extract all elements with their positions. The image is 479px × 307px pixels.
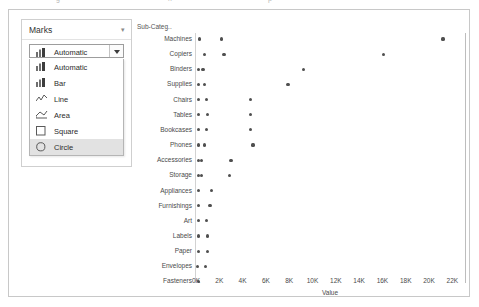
mark-dot[interactable] <box>197 113 200 116</box>
row-label-bookcases: Bookcases <box>72 126 192 133</box>
x-axis-tick: 22K <box>447 277 459 284</box>
row-label-chairs: Chairs <box>72 96 192 103</box>
mark-dot[interactable] <box>302 68 305 71</box>
x-axis-tick: 8K <box>285 277 293 284</box>
mark-dot[interactable] <box>220 37 223 40</box>
plot-area: MachinesCopiersBindersSuppliesChairsTabl… <box>137 19 467 269</box>
row-label-appliances: Appliances <box>72 187 192 194</box>
mark-dot[interactable] <box>198 37 201 40</box>
x-axis-tick: 20K <box>423 277 435 284</box>
mark-dot[interactable] <box>201 68 204 71</box>
clipped-glyph: rr <box>168 0 173 2</box>
mark-dot[interactable] <box>205 219 208 222</box>
clipped-top-strip: grrp <box>0 0 479 8</box>
row-label-art: Art <box>72 217 192 224</box>
mark-dot[interactable] <box>203 53 206 56</box>
mark-dot[interactable] <box>228 174 231 177</box>
circle-mark-icon <box>36 142 46 153</box>
mark-dot[interactable] <box>203 143 206 146</box>
line-mark-icon <box>36 94 48 104</box>
mark-dot[interactable] <box>197 204 200 207</box>
mark-dot[interactable] <box>286 83 289 86</box>
row-label-supplies: Supplies <box>72 80 192 87</box>
row-label-tables: Tables <box>72 111 192 118</box>
mark-dot[interactable] <box>197 98 200 101</box>
mark-dot[interactable] <box>249 98 252 101</box>
mark-dot[interactable] <box>249 113 252 116</box>
mark-dot[interactable] <box>205 98 208 101</box>
row-label-binders: Binders <box>72 65 192 72</box>
row-label-copiers: Copiers <box>72 50 192 57</box>
x-axis-tick: 16K <box>377 277 389 284</box>
mark-option-label: Bar <box>54 79 66 88</box>
row-label-accessories: Accessories <box>72 156 192 163</box>
row-label-storage: Storage <box>72 171 192 178</box>
area-mark-icon <box>36 110 48 120</box>
mark-dot[interactable] <box>197 234 200 237</box>
x-axis-tick: 10K <box>307 277 319 284</box>
mark-dot[interactable] <box>197 219 200 222</box>
x-axis-tick: 0K <box>192 277 200 284</box>
clipped-glyph: g <box>56 0 60 2</box>
mark-dot[interactable] <box>249 128 252 131</box>
mark-dot[interactable] <box>229 159 232 162</box>
row-label-envelopes: Envelopes <box>72 262 192 269</box>
mark-dot[interactable] <box>222 53 225 56</box>
x-axis-tick: 14K <box>353 277 365 284</box>
mark-dot[interactable] <box>208 204 211 207</box>
row-label-furnishings: Furnishings <box>72 202 192 209</box>
mark-dot[interactable] <box>200 174 203 177</box>
x-axis-title: Value <box>195 289 465 296</box>
mark-dot[interactable] <box>203 83 206 86</box>
scatter-chart: Sub-Categ.. MachinesCopiersBindersSuppli… <box>137 19 467 297</box>
mark-dot[interactable] <box>197 68 200 71</box>
mark-dot[interactable] <box>210 189 213 192</box>
square-mark-icon <box>36 126 46 137</box>
mark-dot[interactable] <box>206 234 209 237</box>
mark-option-label: Area <box>54 111 70 120</box>
row-label-labels: Labels <box>72 232 192 239</box>
mark-option-label: Line <box>54 95 68 104</box>
visualization-frame: Marks ▾ Automatic AutomaticBarLineAreaSq… <box>8 9 470 297</box>
x-axis-tick: 18K <box>400 277 412 284</box>
row-label-fasteners: Fasteners <box>72 277 192 284</box>
mark-dot[interactable] <box>197 250 200 253</box>
mark-dot[interactable] <box>206 113 209 116</box>
chevron-down-icon[interactable]: ▾ <box>121 27 125 33</box>
mark-dot[interactable] <box>251 143 254 146</box>
mark-dot[interactable] <box>382 53 385 56</box>
mark-dot[interactable] <box>197 128 200 131</box>
x-axis-tick: 2K <box>215 277 223 284</box>
row-label-machines: Machines <box>72 35 192 42</box>
mark-dot[interactable] <box>200 159 203 162</box>
bar-mark-icon <box>36 48 47 58</box>
mark-dot[interactable] <box>197 143 200 146</box>
mark-dot[interactable] <box>204 265 207 268</box>
row-label-paper: Paper <box>72 247 192 254</box>
x-axis-tick: 6K <box>262 277 270 284</box>
row-label-phones: Phones <box>72 141 192 148</box>
mark-dot[interactable] <box>206 250 209 253</box>
mark-dot[interactable] <box>205 128 208 131</box>
mark-option-label: Circle <box>54 143 73 152</box>
mark-dot[interactable] <box>197 189 200 192</box>
marks-card-title: Marks <box>29 25 52 35</box>
x-axis-tick: 4K <box>239 277 247 284</box>
bar-mark-icon <box>36 62 47 72</box>
mark-dot[interactable] <box>196 265 199 268</box>
bar-mark-icon <box>36 78 47 88</box>
mark-dot[interactable] <box>197 83 200 86</box>
mark-dot[interactable] <box>441 37 444 40</box>
clipped-glyph: p <box>268 0 272 2</box>
x-axis-tick: 12K <box>330 277 342 284</box>
